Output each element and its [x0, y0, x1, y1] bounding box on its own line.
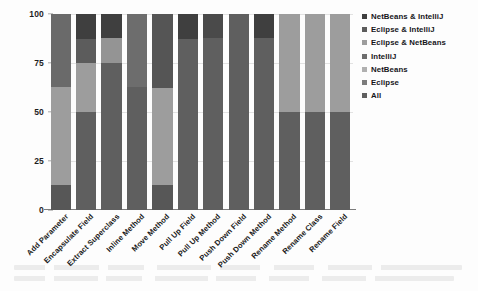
bar-segment: [101, 38, 121, 63]
stacked-bar[interactable]: [101, 14, 121, 210]
legend-label: Eclipse: [371, 78, 399, 87]
stacked-bar[interactable]: [203, 14, 223, 210]
bar-segment: [76, 14, 96, 39]
legend-item[interactable]: Eclipse & IntelliJ: [360, 23, 478, 36]
stacked-bar[interactable]: [76, 14, 96, 210]
bar-segment: [305, 14, 325, 112]
chart-page: 0255075100 Add ParameterEncapsulate Fiel…: [0, 0, 478, 291]
legend-item[interactable]: NetBeans & IntelliJ: [360, 10, 478, 23]
bar-segment: [203, 38, 223, 210]
bar-segment: [152, 185, 172, 210]
bar-segment: [254, 38, 274, 210]
x-axis-labels: Add ParameterEncapsulate FieldExtract Su…: [48, 212, 353, 290]
bar-segment: [229, 14, 249, 210]
legend-swatch-icon: [362, 80, 367, 85]
bar-segment: [76, 63, 96, 112]
legend-label: Eclipse & NetBeans: [371, 38, 446, 47]
bar-segment: [203, 14, 223, 38]
bar-segment: [51, 185, 71, 210]
stacked-bar[interactable]: [229, 14, 249, 210]
legend-swatch-icon: [362, 67, 367, 72]
bar-segment: [152, 14, 172, 88]
bar-slot: [73, 14, 98, 210]
stacked-bar[interactable]: [152, 14, 172, 210]
bar-group: [48, 14, 353, 210]
stacked-bar[interactable]: [127, 14, 147, 210]
stacked-bar[interactable]: [254, 14, 274, 210]
bar-segment: [279, 14, 299, 112]
legend-item[interactable]: IntelliJ: [360, 50, 478, 63]
legend-item[interactable]: Eclipse: [360, 76, 478, 89]
y-tick-label: 75: [34, 58, 44, 68]
legend-swatch-icon: [362, 54, 367, 59]
legend-label: NetBeans & IntelliJ: [371, 12, 444, 21]
y-tick-label: 100: [29, 9, 44, 19]
y-tick-label: 50: [34, 107, 44, 117]
bar-segment: [51, 14, 71, 87]
bar-segment: [76, 112, 96, 210]
bar-slot: [48, 14, 73, 210]
bar-segment: [101, 14, 121, 38]
bar-slot: [150, 14, 175, 210]
bar-slot: [201, 14, 226, 210]
bar-segment: [330, 14, 350, 112]
bar-segment: [101, 63, 121, 210]
bar-slot: [328, 14, 353, 210]
stacked-bar[interactable]: [178, 14, 198, 210]
y-tick-label: 0: [39, 205, 44, 215]
bar-segment: [330, 112, 350, 210]
legend-item[interactable]: Eclipse & NetBeans: [360, 36, 478, 49]
bar-segment: [76, 39, 96, 63]
bar-slot: [277, 14, 302, 210]
y-tick-label: 25: [34, 156, 44, 166]
legend-item[interactable]: All: [360, 89, 478, 102]
legend-label: NetBeans: [371, 65, 408, 74]
bar-slot: [226, 14, 251, 210]
bar-slot: [251, 14, 276, 210]
bar-slot: [124, 14, 149, 210]
bar-segment: [127, 14, 147, 87]
stacked-bar[interactable]: [305, 14, 325, 210]
bar-slot: [302, 14, 327, 210]
x-tick-label: Add Parameter: [25, 212, 70, 257]
legend-swatch-icon: [362, 93, 367, 98]
bar-segment: [279, 112, 299, 210]
stacked-bar[interactable]: [330, 14, 350, 210]
chart-legend: NetBeans & IntelliJEclipse & IntelliJEcl…: [360, 10, 478, 102]
bar-segment: [127, 87, 147, 210]
bar-segment: [178, 39, 198, 210]
bar-segment: [254, 14, 274, 38]
bar-segment: [152, 88, 172, 184]
plot-area: 0255075100 Add ParameterEncapsulate Fiel…: [0, 0, 360, 291]
bar-slot: [175, 14, 200, 210]
legend-label: IntelliJ: [371, 52, 397, 61]
bar-segment: [178, 14, 198, 39]
bar-segment: [51, 87, 71, 185]
legend-item[interactable]: NetBeans: [360, 63, 478, 76]
stacked-bar[interactable]: [279, 14, 299, 210]
stacked-bar[interactable]: [51, 14, 71, 210]
legend-swatch-icon: [362, 27, 367, 32]
legend-label: All: [371, 91, 381, 100]
legend-swatch-icon: [362, 40, 367, 45]
x-tick-label: Rename Method: [250, 212, 299, 261]
y-axis: 0255075100: [18, 14, 48, 210]
bar-slot: [99, 14, 124, 210]
bar-segment: [305, 112, 325, 210]
legend-swatch-icon: [362, 14, 367, 19]
legend-label: Eclipse & IntelliJ: [371, 25, 435, 34]
